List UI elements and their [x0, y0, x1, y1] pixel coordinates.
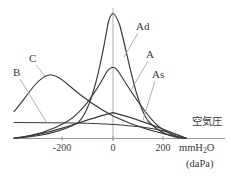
tympanogram-chart: Ad A As C B -200 0 200 空気圧 mmH2O (daPa) [0, 0, 231, 180]
axis-label-air-pressure: 空気圧 [192, 116, 222, 127]
x-tick-label-plus-200: 200 [149, 143, 177, 153]
annotation-leader-lines [20, 33, 155, 123]
x-tick-label-zero: 0 [103, 143, 123, 153]
axis-unit-mmh2o-main: mmH [179, 142, 203, 153]
leader-line-C [36, 65, 45, 76]
leader-line-Ad [124, 33, 138, 57]
annotation-label-A: A [146, 49, 154, 60]
curve-As [14, 113, 186, 139]
leader-line-B [20, 79, 47, 123]
annotation-label-B: B [13, 67, 20, 78]
x-tick-label-minus-200: -200 [44, 143, 80, 153]
annotation-label-Ad: Ad [136, 21, 149, 32]
leader-line-A [131, 61, 148, 90]
axis-unit-mmh2o-tail: O [207, 142, 215, 153]
annotation-label-C: C [29, 53, 36, 64]
axis-unit-mmh2o: mmH2O [179, 143, 214, 154]
axis-unit-dapa: (daPa) [186, 159, 213, 170]
leader-line-As [143, 81, 155, 120]
annotation-label-As: As [152, 69, 164, 80]
